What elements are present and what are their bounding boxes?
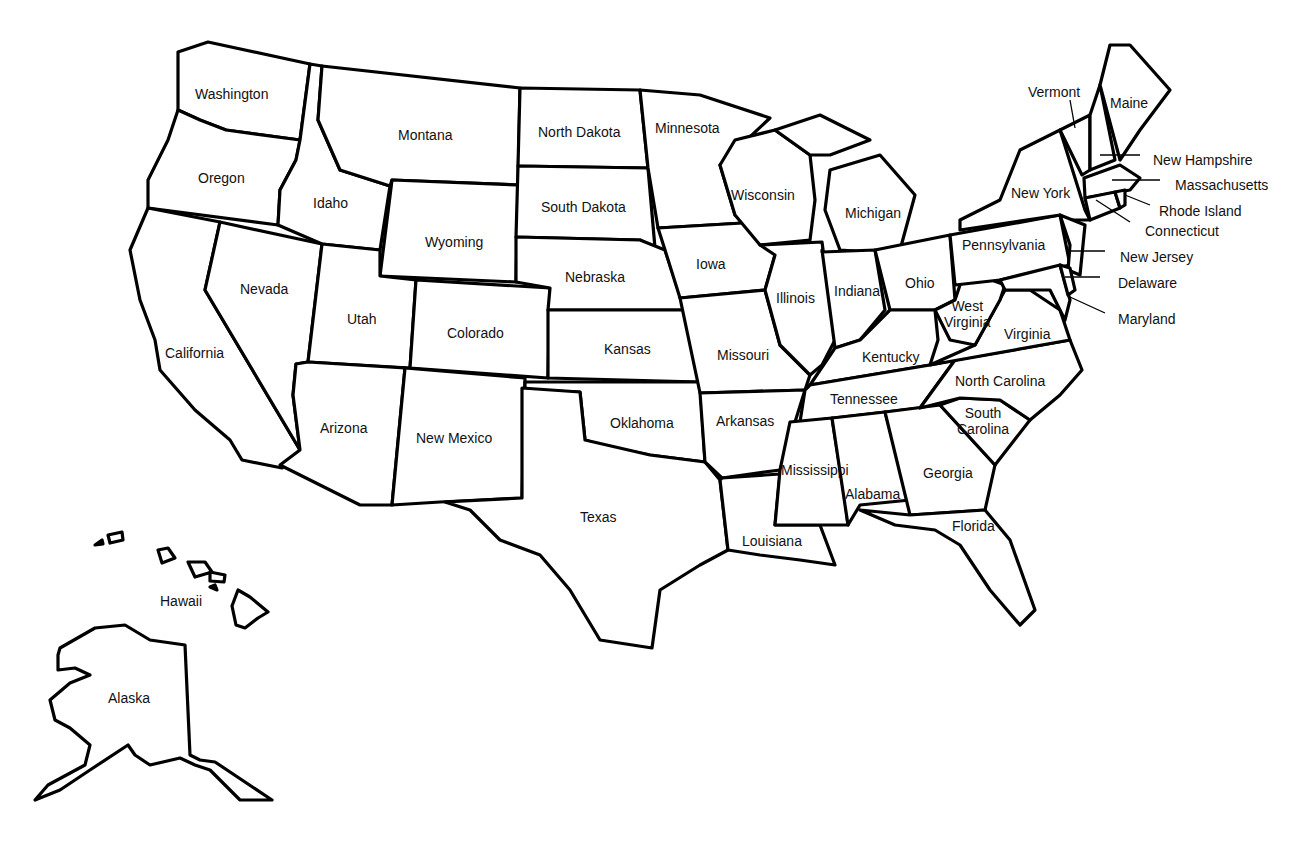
state-label-nebraska: Nebraska (565, 269, 625, 285)
callout-label-delaware: Delaware (1118, 275, 1177, 291)
state-label-colorado: Colorado (447, 325, 504, 341)
state-label-georgia: Georgia (923, 465, 973, 481)
state-label-ohio: Ohio (905, 275, 935, 291)
state-label-minnesota: Minnesota (655, 120, 720, 136)
callout-label-new-jersey: New Jersey (1120, 249, 1193, 265)
state-label-california: California (165, 345, 224, 361)
state-label-south-carolina: SouthCarolina (957, 405, 1009, 437)
state-label-hawaii: Hawaii (160, 593, 202, 609)
callout-label-rhode-island: Rhode Island (1159, 203, 1242, 219)
state-florida[interactable] (860, 510, 1035, 625)
state-label-west-virginia: WestVirginia (944, 298, 990, 330)
state-label-virginia: Virginia (1004, 326, 1050, 342)
callout-label-new-hampshire: New Hampshire (1153, 152, 1253, 168)
state-label-michigan: Michigan (845, 205, 901, 221)
state-label-utah: Utah (347, 311, 377, 327)
state-label-north-carolina: North Carolina (955, 373, 1045, 389)
state-label-arizona: Arizona (320, 420, 367, 436)
state-michigan[interactable] (825, 155, 915, 252)
callout-label-maryland: Maryland (1118, 311, 1176, 327)
state-label-arkansas: Arkansas (716, 413, 774, 429)
state-label-kentucky: Kentucky (862, 349, 920, 365)
state-label-missouri: Missouri (717, 347, 769, 363)
state-label-vermont: Vermont (1028, 84, 1080, 100)
callout-label-connecticut: Connecticut (1145, 223, 1219, 239)
state-label-florida: Florida (952, 518, 995, 534)
callout-label-massachusetts: Massachusetts (1175, 177, 1268, 193)
state-label-washington: Washington (195, 86, 268, 102)
state-alaska[interactable] (35, 625, 272, 800)
state-label-texas: Texas (580, 509, 617, 525)
state-label-maine: Maine (1110, 95, 1148, 111)
hawaii-islands[interactable] (95, 532, 268, 628)
state-label-montana: Montana (398, 127, 452, 143)
state-label-louisiana: Louisiana (742, 533, 802, 549)
state-label-pennsylvania: Pennsylvania (962, 237, 1045, 253)
state-label-wisconsin: Wisconsin (731, 187, 795, 203)
state-label-indiana: Indiana (834, 283, 880, 299)
state-wyoming[interactable] (380, 180, 518, 282)
state-label-oklahoma: Oklahoma (610, 415, 674, 431)
state-label-alabama: Alabama (845, 486, 900, 502)
state-label-north-dakota: North Dakota (538, 124, 620, 140)
state-label-mississippi: Mississippi (781, 462, 849, 478)
state-label-alaska: Alaska (108, 690, 150, 706)
state-label-wyoming: Wyoming (425, 234, 483, 250)
state-label-nevada: Nevada (240, 281, 288, 297)
state-label-idaho: Idaho (313, 195, 348, 211)
state-label-oregon: Oregon (198, 170, 245, 186)
state-ohio[interactable] (875, 235, 955, 310)
state-label-illinois: Illinois (776, 290, 815, 306)
state-label-new-york: New York (1011, 185, 1070, 201)
state-label-iowa: Iowa (696, 256, 726, 272)
state-label-south-dakota: South Dakota (541, 199, 626, 215)
state-label-kansas: Kansas (604, 341, 651, 357)
state-montana[interactable] (318, 66, 520, 186)
state-label-new-mexico: New Mexico (416, 430, 492, 446)
state-label-tennessee: Tennessee (830, 391, 898, 407)
